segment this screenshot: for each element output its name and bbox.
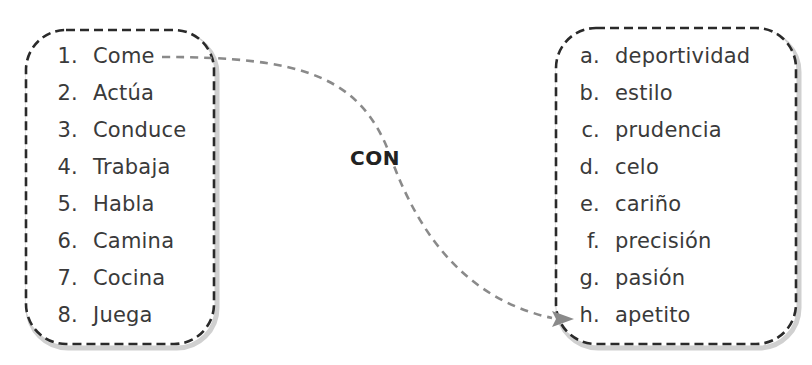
arrowhead-icon	[552, 311, 574, 327]
connector-label: CON	[350, 146, 400, 170]
example-connector-arrow	[0, 0, 812, 365]
